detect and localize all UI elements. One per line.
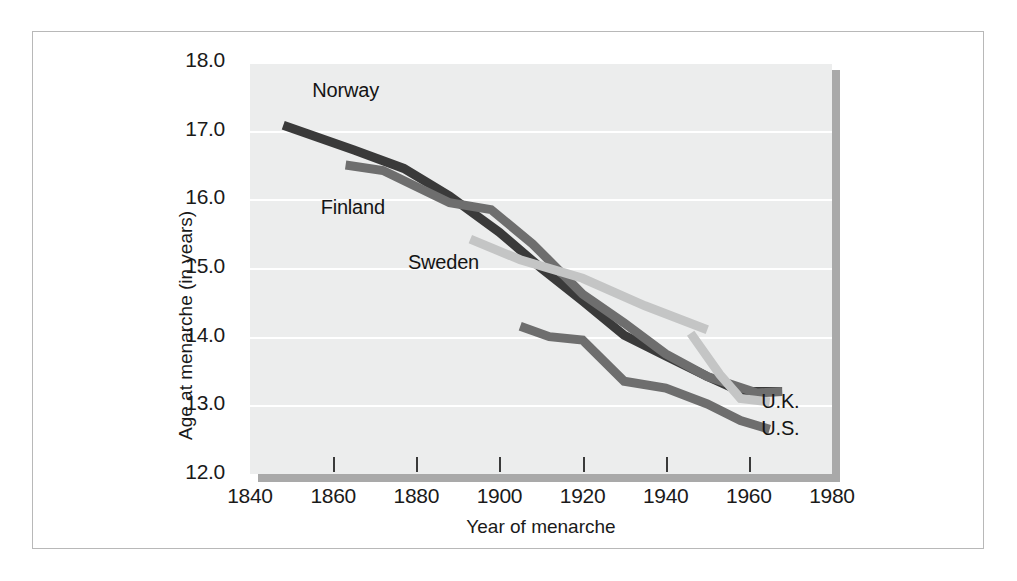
x-tick-label: 1980 [787,484,877,508]
y-tick-label: 12.0 [0,460,225,484]
x-tick-label: 1860 [288,484,378,508]
x-tick-label: 1840 [205,484,295,508]
gridline [250,405,832,407]
x-tick-label: 1920 [538,484,628,508]
plot-area [250,62,832,474]
x-tick-label: 1880 [371,484,461,508]
x-tick-mark [749,457,751,472]
x-tick-label: 1960 [704,484,794,508]
x-tick-mark [416,457,418,472]
y-tick-label: 18.0 [0,48,225,72]
gridline [250,131,832,133]
y-tick-label: 14.0 [0,323,225,347]
figure-canvas: Age at menarche (in years) Year of menar… [0,0,1017,581]
gridline [250,268,832,270]
series-label-uk: U.K. [761,390,799,413]
series-label-sweden: Sweden [408,251,479,274]
x-tick-mark [666,457,668,472]
x-tick-mark [333,457,335,472]
plot-shadow-bottom [258,474,840,482]
x-tick-mark [583,457,585,472]
y-tick-label: 13.0 [0,391,225,415]
series-label-us: U.S. [761,417,799,440]
x-tick-label: 1900 [454,484,544,508]
gridline [250,337,832,339]
x-tick-label: 1940 [621,484,711,508]
y-tick-label: 17.0 [0,117,225,141]
gridline [250,62,832,64]
y-tick-label: 15.0 [0,254,225,278]
plot-shadow-right [832,70,840,482]
series-label-finland: Finland [321,196,385,219]
x-tick-mark [499,457,501,472]
x-axis-label: Year of menarche [391,516,691,538]
series-label-norway: Norway [312,79,379,102]
y-tick-label: 16.0 [0,185,225,209]
